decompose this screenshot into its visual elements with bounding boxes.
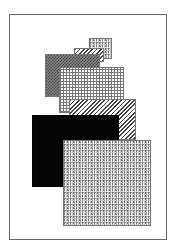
large-speckle-rect — [63, 140, 151, 226]
